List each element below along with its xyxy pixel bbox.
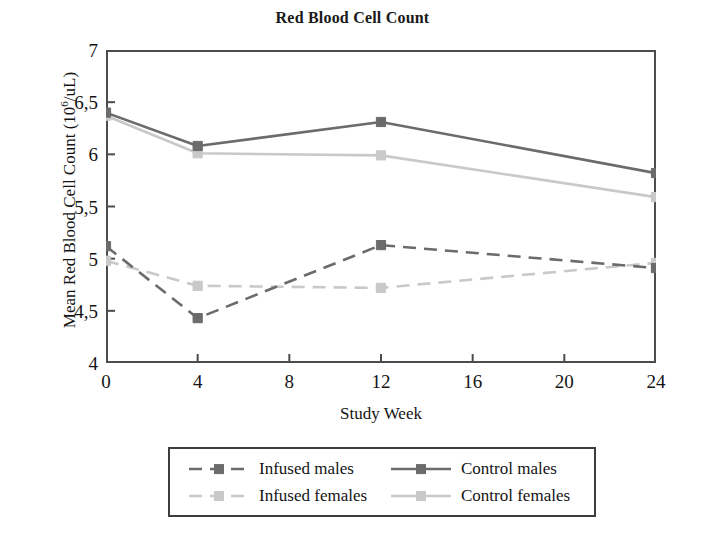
series-marker bbox=[106, 108, 111, 117]
x-axis-tick-label: 4 bbox=[193, 372, 203, 391]
legend-label: Infused females bbox=[259, 486, 367, 506]
chart-figure: Red Blood Cell Count Mean Red Blood Cell… bbox=[0, 0, 705, 533]
legend-marker bbox=[215, 464, 224, 473]
y-axis-tick-label: 6,5 bbox=[26, 93, 98, 112]
legend-marker bbox=[417, 491, 426, 500]
chart-title: Red Blood Cell Count bbox=[0, 9, 705, 27]
series-marker bbox=[651, 193, 656, 202]
legend-line-sample bbox=[188, 488, 250, 504]
series-marker bbox=[106, 256, 111, 265]
series-marker bbox=[376, 151, 385, 160]
legend-marker bbox=[215, 491, 224, 500]
x-axis-tick-label: 20 bbox=[555, 372, 574, 391]
y-axis-tick-label: 5 bbox=[26, 249, 98, 268]
x-axis-tick-label: 16 bbox=[463, 372, 482, 391]
series-marker bbox=[376, 283, 385, 292]
legend-marker bbox=[417, 464, 426, 473]
x-axis-tick-labels: 04812162024 bbox=[0, 372, 705, 398]
x-axis-tick-label: 24 bbox=[647, 372, 666, 391]
legend-entry[interactable]: Control females bbox=[382, 486, 584, 506]
legend-entry[interactable]: Infused males bbox=[180, 459, 382, 479]
y-axis-tick-label: 4,5 bbox=[26, 301, 98, 320]
legend-line-sample bbox=[188, 461, 250, 477]
series-line bbox=[106, 245, 656, 318]
y-axis-tick-label: 4 bbox=[26, 354, 98, 373]
series-marker bbox=[376, 241, 385, 250]
chart-legend: Infused malesControl malesInfused female… bbox=[168, 447, 596, 517]
x-axis-tick-label: 12 bbox=[372, 372, 391, 391]
series-marker bbox=[193, 281, 202, 290]
series-marker bbox=[376, 117, 385, 126]
legend-entry[interactable]: Infused females bbox=[180, 486, 382, 506]
x-axis-tick-label: 0 bbox=[101, 372, 111, 391]
series-marker bbox=[651, 263, 656, 272]
y-axis-tick-labels: 76,565,554,54 bbox=[26, 0, 98, 533]
series-marker bbox=[651, 169, 656, 178]
legend-label: Infused males bbox=[259, 459, 354, 479]
plot-area bbox=[106, 50, 656, 363]
x-axis-title: Study Week bbox=[106, 404, 656, 424]
y-axis-tick-label: 6 bbox=[26, 145, 98, 164]
legend-line-sample bbox=[390, 461, 452, 477]
legend-entry[interactable]: Control males bbox=[382, 459, 584, 479]
legend-line-sample bbox=[390, 488, 452, 504]
legend-label: Control males bbox=[461, 459, 557, 479]
legend-label: Control females bbox=[461, 486, 570, 506]
y-axis-tick-label: 7 bbox=[26, 41, 98, 60]
series-marker bbox=[193, 314, 202, 323]
series-marker bbox=[193, 141, 202, 150]
y-axis-tick-label: 5,5 bbox=[26, 197, 98, 216]
series-marker bbox=[106, 242, 111, 251]
x-axis-tick-label: 8 bbox=[285, 372, 295, 391]
